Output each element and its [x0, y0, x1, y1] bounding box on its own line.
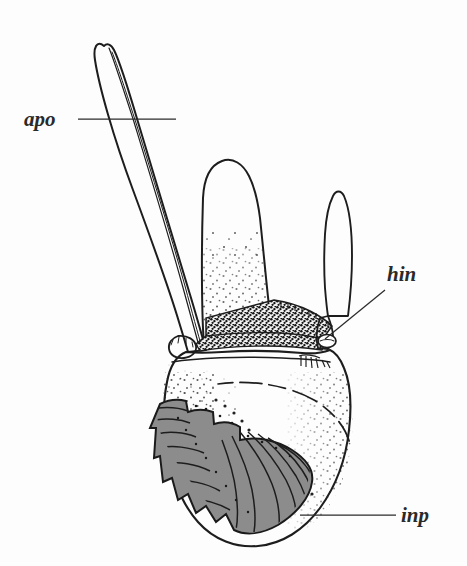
figure-canvas: apo hin inp: [0, 0, 467, 566]
apodeme-group: [94, 44, 206, 352]
apodeme-outline: [94, 44, 206, 352]
right-lobe-group: [324, 192, 352, 317]
anatomical-illustration: apo hin inp: [0, 0, 467, 566]
label-inp: inp: [401, 503, 429, 527]
label-apo: apo: [24, 107, 56, 131]
dark-band-lower: [196, 333, 326, 351]
apodeme-inner-edge: [109, 48, 199, 346]
label-hin: hin: [387, 262, 416, 286]
hin-leader-line: [325, 290, 385, 339]
right-lobe-outline: [324, 192, 352, 317]
